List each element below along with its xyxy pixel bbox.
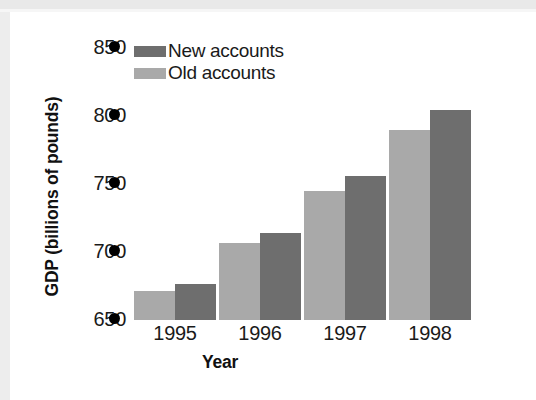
x-tick-label-1995: 1995 [134, 322, 216, 348]
chart-legend: New accounts Old accounts [134, 40, 284, 84]
bar-old-accounts-1996[interactable] [219, 243, 260, 320]
x-tick-label-1997: 1997 [304, 322, 386, 348]
x-tick-label-1998: 1998 [389, 322, 471, 348]
bar-chart-figure: GDP (billions of pounds) 850 800 750 700… [0, 0, 536, 400]
y-tick-marker-750 [109, 177, 120, 188]
bar-old-accounts-1995[interactable] [134, 291, 175, 320]
legend-item-new-accounts[interactable]: New accounts [134, 40, 284, 62]
page-edge-left [0, 0, 10, 400]
legend-label-old-accounts: Old accounts [168, 62, 275, 84]
bar-new-accounts-1995[interactable] [175, 284, 216, 320]
y-tick-marker-700 [109, 245, 120, 256]
legend-item-old-accounts[interactable]: Old accounts [134, 62, 284, 84]
bar-new-accounts-1998[interactable] [430, 110, 471, 320]
dark-gray-swatch-icon [134, 46, 166, 57]
bar-group-1997 [304, 40, 386, 320]
x-axis-title: Year [150, 352, 290, 373]
bar-new-accounts-1997[interactable] [345, 176, 386, 320]
light-gray-swatch-icon [134, 68, 166, 79]
y-tick-marker-650 [109, 313, 120, 324]
bar-new-accounts-1996[interactable] [260, 233, 301, 320]
y-tick-marker-800 [109, 109, 120, 120]
page-edge-top-fade [0, 9, 536, 12]
page-edge-top [0, 0, 536, 9]
legend-label-new-accounts: New accounts [168, 40, 284, 62]
bar-group-1998 [389, 40, 471, 320]
bar-old-accounts-1997[interactable] [304, 191, 345, 320]
bar-old-accounts-1998[interactable] [389, 130, 430, 320]
y-tick-marker-850 [109, 41, 120, 52]
x-tick-label-1996: 1996 [219, 322, 301, 348]
